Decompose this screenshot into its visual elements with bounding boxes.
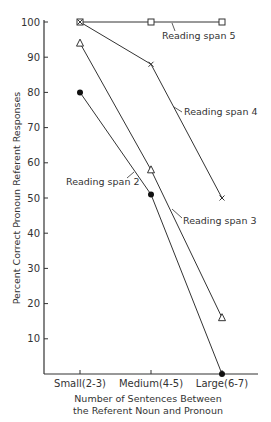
y-tick-label: 10	[27, 333, 40, 344]
series-label: Reading span 2	[66, 176, 139, 187]
y-tick-label: 90	[27, 52, 40, 63]
circle-marker	[148, 191, 154, 197]
square-marker	[219, 19, 225, 25]
x-tick-label: Medium(4-5)	[119, 378, 183, 389]
series-label: Reading span 3	[183, 215, 256, 226]
triangle-marker	[148, 166, 155, 173]
y-tick-label: 40	[27, 228, 40, 239]
axes: 102030405060708090100Small(2-3)Medium(4-…	[21, 17, 258, 390]
series-markers	[77, 19, 226, 377]
series-line	[80, 92, 222, 374]
y-tick-label: 70	[27, 122, 40, 133]
triangle-marker	[77, 39, 84, 46]
series-label: Reading span 5	[162, 30, 235, 41]
line-chart: 102030405060708090100Small(2-3)Medium(4-…	[0, 0, 271, 422]
y-tick-label: 60	[27, 157, 40, 168]
series-lines	[80, 22, 222, 374]
square-marker	[148, 19, 154, 25]
x-marker	[220, 196, 225, 201]
series-label: Reading span 4	[184, 106, 257, 117]
y-tick-label: 50	[27, 193, 40, 204]
x-axis-title-line2: the Referent Noun and Pronoun	[73, 405, 223, 416]
series-annotations: Reading span 5Reading span 4Reading span…	[66, 23, 257, 226]
x-axis-title: Number of Sentences Between	[74, 393, 221, 404]
x-tick-label: Large(6-7)	[196, 378, 248, 389]
x-marker	[149, 62, 154, 67]
circle-marker	[77, 89, 83, 95]
y-tick-label: 30	[27, 263, 40, 274]
circle-marker	[219, 371, 225, 377]
triangle-marker	[219, 314, 226, 321]
y-tick-label: 100	[21, 17, 40, 28]
y-axis-title: Percent Correct Pronoun Referent Respons…	[11, 92, 22, 305]
y-tick-label: 80	[27, 87, 40, 98]
x-tick-label: Small(2-3)	[54, 378, 106, 389]
y-tick-label: 20	[27, 298, 40, 309]
